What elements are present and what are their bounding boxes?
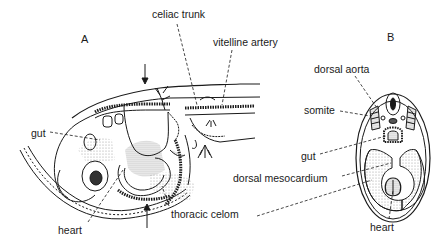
arrow-down-icon xyxy=(142,64,148,84)
panel-b-drawing xyxy=(257,76,430,222)
panel-a-drawing xyxy=(20,24,260,228)
embryo-diagram xyxy=(0,0,442,247)
